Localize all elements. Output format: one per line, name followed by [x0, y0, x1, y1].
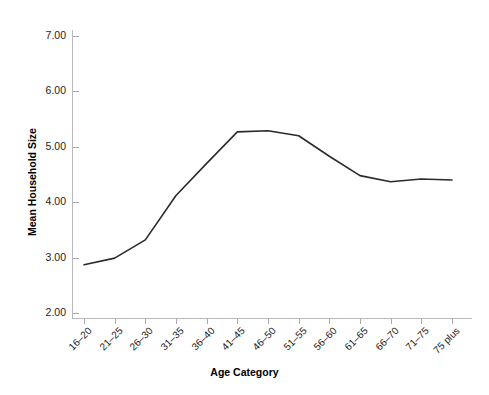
x-axis-line	[72, 318, 472, 319]
x-tick-mark	[329, 319, 330, 324]
y-tick-label: 2.00	[20, 307, 66, 318]
x-tick-mark	[452, 319, 453, 324]
y-tick-mark	[73, 202, 79, 203]
y-tick-mark	[73, 36, 79, 37]
x-tick-mark	[176, 319, 177, 324]
y-tick-mark	[73, 258, 79, 259]
y-tick-label: 6.00	[20, 85, 66, 96]
y-tick-mark	[73, 313, 79, 314]
x-tick-mark	[84, 319, 85, 324]
x-axis-title: Age Category	[0, 366, 489, 378]
page-running-header	[0, 0, 489, 9]
y-axis-title: Mean Household Size	[26, 220, 38, 236]
chart-figure: 7.006.005.004.003.002.00 16–2021–2526–30…	[0, 0, 489, 395]
x-tick-mark	[237, 319, 238, 324]
y-tick-mark	[73, 147, 79, 148]
x-tick-mark	[207, 319, 208, 324]
y-axis-line	[72, 30, 73, 319]
x-tick-mark	[145, 319, 146, 324]
y-tick-mark	[73, 91, 79, 92]
x-tick-mark	[268, 319, 269, 324]
x-tick-mark	[299, 319, 300, 324]
x-tick-mark	[360, 319, 361, 324]
y-tick-label: 7.00	[20, 30, 66, 41]
y-tick-label: 3.00	[20, 252, 66, 263]
x-tick-mark	[115, 319, 116, 324]
x-tick-mark	[421, 319, 422, 324]
x-tick-mark	[391, 319, 392, 324]
